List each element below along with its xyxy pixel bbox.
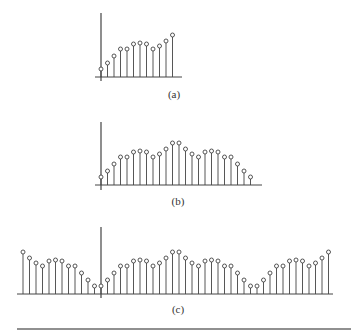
stem-marker (106, 61, 110, 65)
stem-marker (249, 175, 253, 179)
stem-marker (190, 152, 194, 156)
stem-marker (47, 259, 51, 263)
stem-marker (236, 271, 240, 275)
stem-marker (119, 47, 123, 51)
stem-marker (21, 250, 25, 254)
stem-marker (99, 67, 103, 71)
stem-marker (288, 259, 292, 263)
stem-marker (112, 271, 116, 275)
stem-marker (132, 42, 136, 46)
stem-marker (197, 155, 201, 159)
stem-marker (158, 261, 162, 265)
stem-marker (177, 141, 181, 145)
stem-marker (158, 44, 162, 48)
stem-marker (112, 162, 116, 166)
stem-marker (210, 149, 214, 153)
stem-marker (236, 162, 240, 166)
panel-a (95, 13, 182, 81)
panel-b (95, 122, 262, 190)
stem-marker (320, 256, 324, 260)
stem-marker (275, 264, 279, 268)
stem-marker (119, 264, 123, 268)
stem-marker (171, 33, 175, 37)
stem-marker (249, 284, 253, 288)
stem-marker (184, 256, 188, 260)
stem-marker (99, 284, 103, 288)
stem-marker (34, 261, 38, 265)
caption-a: (a) (168, 88, 181, 101)
stem-marker (177, 250, 181, 254)
stem-marker (294, 258, 298, 262)
stem-plot-figure: (a) (b) (c) (0, 0, 351, 335)
stem-marker (138, 41, 142, 45)
stem-marker (119, 155, 123, 159)
stem-marker (190, 261, 194, 265)
stem-marker (138, 149, 142, 153)
stem-marker (203, 259, 207, 263)
panel-c (17, 227, 333, 298)
stem-marker (80, 271, 84, 275)
stem-marker (86, 278, 90, 282)
stem-marker (41, 264, 45, 268)
stem-marker (164, 39, 168, 43)
stem-marker (171, 250, 175, 254)
stem-marker (307, 264, 311, 268)
stem-marker (151, 47, 155, 51)
stem-marker (229, 155, 233, 159)
stem-marker (125, 47, 129, 51)
stem-marker (242, 169, 246, 173)
stem-marker (106, 278, 110, 282)
stem-marker (171, 141, 175, 145)
stem-marker (112, 54, 116, 58)
stem-marker (223, 264, 227, 268)
stem-marker (132, 259, 136, 263)
stem-marker (106, 169, 110, 173)
stem-marker (242, 278, 246, 282)
stem-marker (145, 42, 149, 46)
stem-marker (216, 150, 220, 154)
stem-marker (223, 155, 227, 159)
stem-marker (262, 278, 266, 282)
stem-marker (301, 259, 305, 263)
stem-marker (327, 250, 331, 254)
stem-marker (158, 152, 162, 156)
stem-marker (197, 264, 201, 268)
stem-marker (151, 264, 155, 268)
stem-marker (229, 264, 233, 268)
stem-marker (314, 261, 318, 265)
stem-marker (138, 258, 142, 262)
stem-marker (184, 147, 188, 151)
stem-marker (54, 258, 58, 262)
caption-b: (b) (172, 195, 185, 208)
stem-marker (73, 264, 77, 268)
stem-marker (60, 259, 64, 263)
stem-marker (255, 284, 259, 288)
stem-marker (125, 264, 129, 268)
stem-marker (67, 264, 71, 268)
stem-marker (281, 264, 285, 268)
caption-c: (c) (172, 303, 185, 316)
stem-marker (125, 155, 129, 159)
stem-marker (28, 256, 32, 260)
stem-marker (164, 147, 168, 151)
stem-marker (268, 271, 272, 275)
stem-marker (145, 150, 149, 154)
stem-marker (210, 258, 214, 262)
stem-marker (132, 150, 136, 154)
stem-marker (99, 175, 103, 179)
stem-marker (145, 259, 149, 263)
stem-marker (93, 284, 97, 288)
stem-marker (203, 150, 207, 154)
stem-marker (216, 259, 220, 263)
stem-marker (164, 256, 168, 260)
stem-marker (151, 155, 155, 159)
